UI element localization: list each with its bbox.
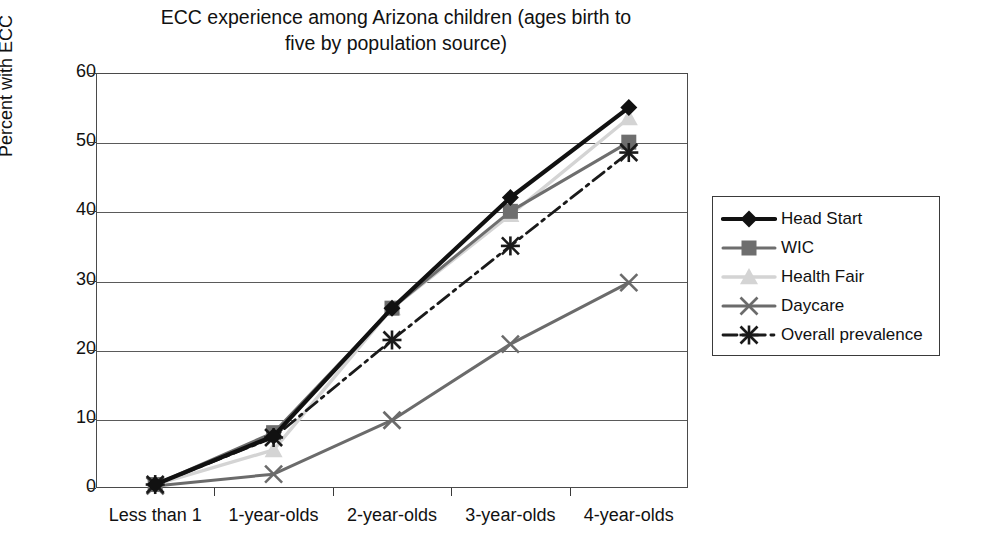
x-tick-label-4: 4-year-olds (584, 505, 674, 526)
gridline-10 (97, 420, 687, 421)
legend-item-wic[interactable]: WIC (721, 233, 931, 262)
x-tick-mark-3 (451, 488, 452, 496)
y-tick-label-30: 30 (52, 269, 96, 290)
legend-item-daycare[interactable]: Daycare (721, 291, 931, 320)
y-tick-mark-10 (88, 419, 96, 420)
gridline-40 (97, 212, 687, 213)
legend-label: WIC (781, 238, 814, 258)
x-tick-label-3: 3-year-olds (465, 505, 555, 526)
legend-item-head-start[interactable]: Head Start (721, 204, 931, 233)
y-tick-label-20: 20 (52, 338, 96, 359)
legend-swatch-square-icon (721, 237, 777, 259)
y-axis-ticks: 6050403020100 (46, 0, 96, 559)
y-tick-label-0: 0 (52, 476, 96, 497)
x-tick-label-0: Less than 1 (109, 505, 202, 526)
gridline-20 (97, 351, 687, 352)
plot-area (96, 73, 688, 488)
y-tick-label-40: 40 (52, 199, 96, 220)
x-tick-mark-4 (570, 488, 571, 496)
x-tick-label-2: 2-year-olds (347, 505, 437, 526)
y-tick-label-10: 10 (52, 407, 96, 428)
y-tick-label-50: 50 (52, 130, 96, 151)
y-tick-mark-0 (88, 488, 96, 489)
legend-swatch-cross-icon (721, 295, 777, 317)
x-tick-label-1: 1-year-olds (229, 505, 319, 526)
legend-swatch-diamond-icon (721, 208, 777, 230)
y-tick-mark-30 (88, 281, 96, 282)
legend-label: Daycare (781, 296, 844, 316)
legend-swatch-asterisk-icon (721, 324, 777, 346)
x-tick-mark-1 (214, 488, 215, 496)
y-tick-mark-50 (88, 142, 96, 143)
legend-swatch-triangle-icon (721, 266, 777, 288)
legend-label: Head Start (781, 209, 862, 229)
y-tick-label-60: 60 (52, 61, 96, 82)
legend-item-overall-prevalence[interactable]: Overall prevalence (721, 320, 931, 349)
gridline-50 (97, 143, 687, 144)
chart-canvas: ECC experience among Arizona children (a… (0, 0, 994, 559)
y-tick-mark-40 (88, 211, 96, 212)
y-tick-mark-60 (88, 73, 96, 74)
legend-label: Overall prevalence (781, 325, 923, 345)
legend-item-health-fair[interactable]: Health Fair (721, 262, 931, 291)
y-tick-mark-20 (88, 350, 96, 351)
page-title: ECC experience among Arizona children (a… (96, 4, 696, 56)
legend-label: Health Fair (781, 267, 864, 287)
chart-legend: Head StartWICHealth FairDaycareOverall p… (712, 196, 940, 356)
x-tick-mark-2 (333, 488, 334, 496)
gridline-30 (97, 282, 687, 283)
y-axis-title: Percent with ECC (0, 0, 17, 196)
